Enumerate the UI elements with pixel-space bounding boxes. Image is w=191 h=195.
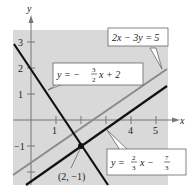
eq3-mid: x − <box>139 157 154 168</box>
eq3-prefix: y = <box>110 157 125 168</box>
eq1-denominator: 2 <box>92 76 96 84</box>
x-tick-1: 1 <box>52 125 57 136</box>
y-tick-1: 1 <box>18 89 23 100</box>
x-axis-arrow-icon <box>172 118 180 123</box>
eq2-label: 2x − 3y = 5 <box>112 32 159 43</box>
graph: y x 1 4 5 3 2 1 −1 (2, −1) y = − 3 2 x +… <box>0 0 191 195</box>
eq1-suffix: x + 2 <box>98 69 120 80</box>
eq3-num1: 2 <box>132 154 136 162</box>
x-axis-label: x <box>179 115 185 126</box>
y-tick-neg1: −1 <box>14 141 25 152</box>
eq3-den2: 3 <box>165 164 169 172</box>
x-tick-4: 4 <box>128 125 133 136</box>
x-tick-5: 5 <box>153 125 158 136</box>
eq1-numerator: 3 <box>92 66 96 74</box>
eq3-num2: 7 <box>165 154 169 162</box>
y-axis-label: y <box>26 3 32 14</box>
y-tick-3: 3 <box>18 37 23 48</box>
eq3-den1: 3 <box>132 164 136 172</box>
intersection-point <box>78 143 84 149</box>
point-label: (2, −1) <box>58 171 85 183</box>
eq1-prefix: y = − <box>56 69 80 80</box>
y-axis-arrow-icon <box>29 15 34 23</box>
y-tick-2: 2 <box>18 63 23 74</box>
